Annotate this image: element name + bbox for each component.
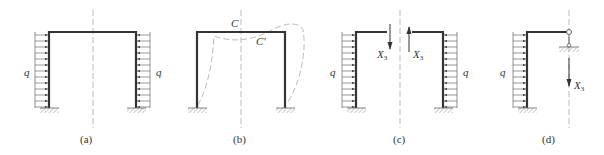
distributed-load-right (444, 32, 457, 108)
distributed-load-right (137, 32, 150, 108)
deformed-shape (198, 24, 304, 105)
portal-frame (49, 32, 136, 108)
fixed-support-icon (127, 108, 146, 113)
force-label-x3: X3 (573, 79, 585, 93)
point-label-c-prime: C' (256, 35, 266, 47)
point-label-c: C (231, 17, 239, 29)
load-label-q: q (463, 66, 469, 78)
force-label-x3: X3 (376, 48, 388, 62)
caption-d: (d) (542, 133, 555, 146)
fixed-support-icon (276, 108, 295, 113)
caption-a: (a) (80, 133, 93, 146)
pinned-support-icon (559, 47, 579, 52)
panel-b: C C' (b) (188, 10, 304, 146)
fixed-support-icon (518, 108, 537, 113)
force-label-x3: X3 (412, 48, 424, 62)
load-label-q: q (156, 66, 162, 78)
half-frame-left (356, 32, 387, 108)
distributed-load-left (342, 32, 355, 108)
hinge-icon (567, 30, 572, 35)
load-label-q: q (500, 66, 506, 78)
distributed-load-left (35, 32, 48, 108)
caption-b: (b) (233, 133, 246, 146)
half-frame-right (412, 32, 443, 108)
half-frame (527, 32, 567, 108)
panel-a: q q (a) (24, 10, 162, 146)
distributed-load-left (513, 32, 526, 108)
load-label-q: q (330, 66, 336, 78)
fixed-support-icon (347, 108, 366, 113)
fixed-support-icon (434, 108, 453, 113)
structural-figure: q q (a) (0, 0, 604, 155)
panel-d: q X3 (d) (500, 10, 585, 146)
panel-c: q q X3 X3 (c) (330, 10, 469, 146)
caption-c: (c) (393, 133, 406, 146)
load-label-q: q (24, 66, 30, 78)
fixed-support-icon (188, 108, 207, 113)
fixed-support-icon (40, 108, 59, 113)
